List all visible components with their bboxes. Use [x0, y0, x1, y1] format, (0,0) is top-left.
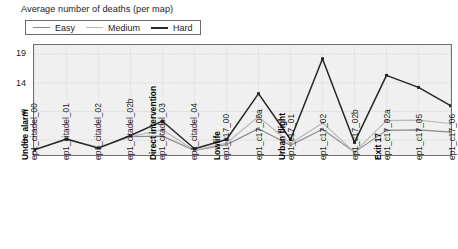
legend-swatch-icon-hard [151, 27, 168, 29]
legend-entry-medium: Medium [86, 23, 140, 33]
legend-label-easy: Easy [55, 23, 75, 33]
x-axis: Undue alarmep1_citadel_00ep1_citadel_01e… [33, 156, 452, 249]
chart-legend: EasyMediumHard [25, 20, 201, 35]
data-point-marker [321, 57, 324, 60]
legend-label-medium: Medium [108, 23, 140, 33]
x-label-group: ep1_c17_05 [419, 158, 428, 249]
data-point-marker [449, 104, 451, 107]
legend-swatch-icon-medium [86, 27, 103, 28]
x-label-group: ep1_c17_06 [452, 158, 458, 249]
x-label-group: ep1_c17_00a [259, 158, 268, 249]
x-label-group: Direct interventionep1_citadel_03 [153, 158, 171, 249]
legend-entry-easy: Easy [33, 23, 75, 33]
x-label-group: ep1_citadel_04 [194, 158, 203, 249]
legend-label-hard: Hard [173, 23, 193, 33]
legend-entry-hard: Hard [151, 23, 193, 33]
x-label-group: Exit 17ep1_c17_02a [378, 158, 396, 249]
x-label-group: Urban flightep1_c17_01 [282, 158, 300, 249]
x-label-group: ep1_citadel_01 [66, 158, 75, 249]
x-label-group: ep1_citadel_02 [98, 158, 107, 249]
x-label-group: ep1_c17_02 [323, 158, 332, 249]
data-point-marker [257, 92, 260, 95]
data-point-marker [385, 74, 388, 77]
legend-swatch-icon-easy [33, 27, 50, 28]
x-label-group: Undue alarmep1_citadel_00 [25, 158, 43, 249]
chart-title: Average number of deaths (per map) [21, 4, 173, 15]
y-tick-label: 14 [16, 78, 26, 87]
x-label-group: Lowlifeep1_c17_00 [217, 158, 235, 249]
data-point-marker [417, 86, 420, 89]
y-tick-label: 19 [16, 49, 26, 58]
deaths-per-map-line-chart: Average number of deaths (per map) EasyM… [0, 0, 458, 249]
x-label-group: ep1_c17_02b [355, 158, 364, 249]
x-label-group: ep1_citadel_02b [130, 158, 139, 249]
